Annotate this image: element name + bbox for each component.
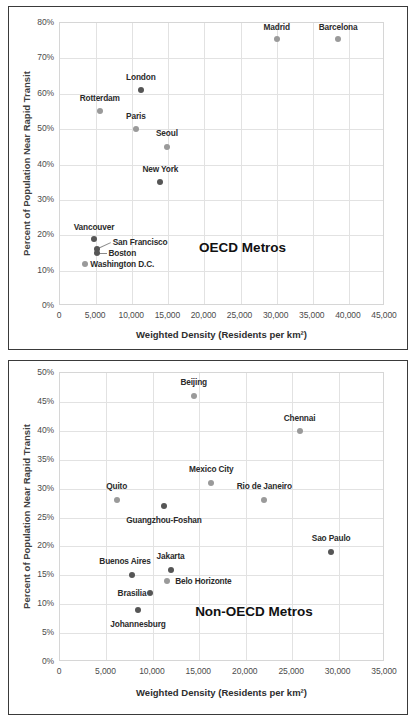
data-point-rotterdam: [97, 108, 103, 114]
point-label-madrid: Madrid: [264, 22, 290, 32]
y-axis-tick-label: 50%: [9, 367, 54, 377]
data-point-vancouver: [91, 236, 97, 242]
x-axis-tick-label: 5,000: [95, 666, 116, 676]
data-point-buenos-aires: [129, 572, 135, 578]
gridline-horizontal: [60, 546, 383, 547]
x-axis-tick-label: 35,000: [299, 310, 324, 320]
gridline-vertical: [339, 373, 340, 660]
x-axis-tick-label: 25,000: [278, 666, 303, 676]
gridline-horizontal: [60, 235, 383, 236]
data-point-madrid: [274, 36, 280, 42]
chart-annotation-oecd: OECD Metros: [199, 239, 286, 254]
point-label-buenos-aires: Buenos Aires: [99, 556, 150, 566]
chart-panel-oecd: MadridBarcelonaLondonRotterdamParisSeoul…: [8, 6, 408, 350]
point-label-quito: Quito: [106, 481, 127, 491]
gridline-horizontal: [60, 200, 383, 201]
y-axis-tick-label: 80%: [9, 17, 54, 27]
x-axis-tick-label: 15,000: [155, 310, 180, 320]
data-point-seoul: [164, 144, 170, 150]
point-label-sao-paulo: Sao Paulo: [312, 533, 351, 543]
y-axis-tick-label: 0%: [9, 300, 54, 310]
x-axis-tick-label: 30,000: [263, 310, 288, 320]
y-axis-tick-label: 20%: [9, 229, 54, 239]
point-label-brasilia: Brasilia: [118, 588, 147, 598]
point-label-jakarta: Jakarta: [156, 551, 184, 561]
gridline-vertical: [349, 23, 350, 304]
data-point-guangzhou-foshan: [161, 503, 167, 509]
gridline-horizontal: [60, 518, 383, 519]
y-axis-tick-label: 15%: [9, 569, 54, 579]
data-point-london: [138, 87, 144, 93]
data-point-belo-horizonte: [164, 578, 170, 584]
scatter-chart-oecd: MadridBarcelonaLondonRotterdamParisSeoul…: [9, 7, 407, 349]
data-point-quito: [114, 497, 120, 503]
point-label-mexico-city: Mexico City: [189, 464, 233, 474]
point-label-rio-de-janeiro: Rio de Janeiro: [237, 481, 292, 491]
point-label-vancouver: Vancouver: [74, 222, 115, 232]
data-point-barcelona: [335, 36, 341, 42]
y-axis-tick-label: 70%: [9, 52, 54, 62]
y-axis-tick-label: 0%: [9, 656, 54, 666]
y-axis-tick-label: 45%: [9, 396, 54, 406]
x-axis-tick-label: 0: [57, 310, 62, 320]
point-label-johannesburg: Johannesburg: [110, 619, 165, 629]
chart-panel-non-oecd: BeijingChennaiMexico CityRio de JaneiroQ…: [8, 360, 408, 715]
x-axis-tick-label: 15,000: [186, 666, 211, 676]
gridline-vertical: [106, 373, 107, 660]
gridline-horizontal: [60, 165, 383, 166]
gridline-vertical: [313, 23, 314, 304]
data-point-rio-de-janeiro: [261, 497, 267, 503]
point-label-rotterdam: Rotterdam: [80, 93, 120, 103]
gridline-vertical: [277, 23, 278, 304]
point-label-beijing: Beijing: [180, 377, 207, 387]
gridline-horizontal: [60, 460, 383, 461]
y-axis-tick-label: 20%: [9, 540, 54, 550]
plot-area-oecd: MadridBarcelonaLondonRotterdamParisSeoul…: [59, 22, 384, 305]
data-point-brasilia: [147, 590, 153, 596]
x-axis-tick-label: 35,000: [371, 666, 396, 676]
data-point-chennai: [297, 428, 303, 434]
gridline-vertical: [204, 23, 205, 304]
point-label-barcelona: Barcelona: [319, 22, 358, 32]
point-label-seoul: Seoul: [156, 128, 178, 138]
data-point-paris: [133, 126, 139, 132]
x-axis-tick-label: 10,000: [119, 310, 144, 320]
point-label-san-francisco: San Francisco: [113, 237, 168, 247]
x-axis-tick-label: 20,000: [232, 666, 257, 676]
data-point-new-york: [157, 179, 163, 185]
y-axis-tick-label: 50%: [9, 123, 54, 133]
point-label-washington-d-c: Washington D.C.: [90, 259, 154, 269]
gridline-horizontal: [60, 129, 383, 130]
data-point-washington-d-c: [82, 261, 88, 267]
gridline-horizontal: [60, 58, 383, 59]
point-label-chennai: Chennai: [284, 413, 316, 423]
x-axis-tick-label: 10,000: [139, 666, 164, 676]
x-axis-tick-label: 5,000: [85, 310, 106, 320]
y-axis-tick-label: 60%: [9, 88, 54, 98]
data-point-boston: [94, 250, 100, 256]
x-axis-tick-label: 45,000: [371, 310, 396, 320]
gridline-horizontal: [60, 271, 383, 272]
figure-page: MadridBarcelonaLondonRotterdamParisSeoul…: [0, 0, 418, 722]
x-axis-tick-label: 20,000: [191, 310, 216, 320]
point-label-guangzhou-foshan: Guangzhou-Foshan: [126, 515, 202, 525]
gridline-horizontal: [60, 431, 383, 432]
gridline-vertical: [241, 23, 242, 304]
x-axis-tick-label: 30,000: [325, 666, 350, 676]
point-label-new-york: New York: [142, 164, 178, 174]
y-axis-tick-label: 5%: [9, 627, 54, 637]
data-point-jakarta: [168, 567, 174, 573]
y-axis-tick-label: 30%: [9, 194, 54, 204]
scatter-chart-non-oecd: BeijingChennaiMexico CityRio de JaneiroQ…: [9, 361, 407, 714]
data-point-mexico-city: [208, 480, 214, 486]
y-axis-tick-label: 10%: [9, 598, 54, 608]
x-axis-tick-label: 0: [57, 666, 62, 676]
y-axis-tick-label: 40%: [9, 159, 54, 169]
gridline-horizontal: [60, 402, 383, 403]
y-axis-tick-label: 40%: [9, 425, 54, 435]
label-leader-line: [99, 253, 107, 254]
data-point-beijing: [191, 393, 197, 399]
x-axis-tick-label: 25,000: [227, 310, 252, 320]
x-axis-title-non-oecd: Weighted Density (Residents per km²): [59, 687, 384, 698]
y-axis-tick-label: 10%: [9, 265, 54, 275]
